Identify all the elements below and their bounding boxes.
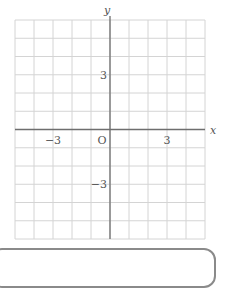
y-tick-label: 3 — [100, 69, 107, 82]
axes — [15, 16, 205, 239]
y-axis-label: y — [103, 4, 111, 17]
origin-label: O — [97, 134, 106, 147]
y-tick-label: −3 — [91, 178, 107, 191]
x-tick-label: −3 — [45, 134, 61, 147]
axis-labels: xyO−333−3 — [45, 4, 217, 191]
x-axis-label: x — [210, 124, 217, 137]
x-tick-label: 3 — [164, 134, 171, 147]
answer-box — [0, 248, 216, 288]
